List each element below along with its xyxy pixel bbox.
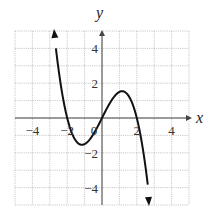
tick-labels: −4−2240−4−224 <box>25 41 175 195</box>
svg-text:4: 4 <box>168 123 175 138</box>
svg-text:−4: −4 <box>25 123 39 138</box>
svg-text:−4: −4 <box>84 181 98 196</box>
svg-text:−2: −2 <box>60 123 74 138</box>
axes <box>15 30 192 205</box>
x-axis-label: x <box>195 109 203 126</box>
svg-text:2: 2 <box>134 123 141 138</box>
function-graph: −4−2240−4−224 x y <box>0 0 214 215</box>
svg-text:2: 2 <box>92 76 99 91</box>
svg-text:4: 4 <box>92 41 99 56</box>
svg-text:0: 0 <box>91 123 98 138</box>
svg-text:−2: −2 <box>84 146 98 161</box>
y-axis-label: y <box>94 4 104 22</box>
